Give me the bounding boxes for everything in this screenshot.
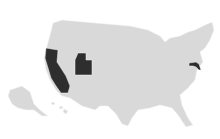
us-map <box>0 0 220 139</box>
hawaii <box>51 102 68 114</box>
contiguous-us <box>44 20 214 127</box>
alaska <box>8 86 48 116</box>
